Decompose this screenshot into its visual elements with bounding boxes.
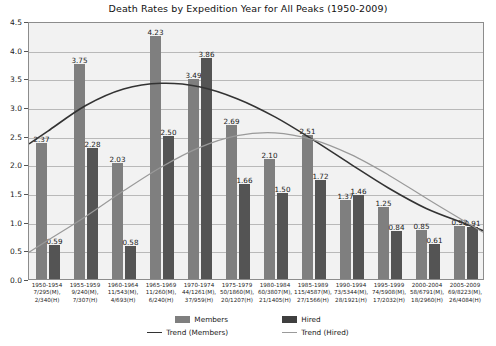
trend-members-line-icon [147,332,162,333]
x-axis-category-label: 1955-19599/240(M),7/307(H) [70,282,101,304]
trend-line-hired [29,133,483,253]
x-axis-category-label: 1950-19547/295(M),2/340(H) [32,282,63,304]
y-axis: 0.00.51.01.52.02.53.03.54.04.5 [0,22,26,280]
legend-label-hired: Hired [301,315,320,324]
y-tick-label: 0.5 [10,247,22,256]
x-axis-labels: 1950-19547/295(M),2/340(H)1955-19599/240… [28,282,484,312]
legend-label-trend-hired: Trend (Hired) [301,328,348,337]
y-tick-label: 3.5 [10,75,22,84]
y-tick-label: 3.0 [10,104,22,113]
x-axis-category-label: 1990-199473/5344(M),28/1921(H) [334,282,368,304]
y-tick-label: 4.5 [10,18,22,27]
y-tick-mark [24,280,28,281]
chart-container: Death Rates by Expedition Year for All P… [0,0,496,346]
legend-item-trend-hired: Trend (Hired) [282,327,348,338]
legend-label-members: Members [194,315,228,324]
members-swatch-icon [175,316,190,323]
chart-title: Death Rates by Expedition Year for All P… [0,3,496,14]
x-axis-category-label: 1975-197950/1860(M),20/1207(H) [220,282,254,304]
legend-item-members: Members [175,314,228,325]
x-axis-category-label: 1965-196911/260(M),6/240(H) [146,282,177,304]
x-axis-category-label: 2005-200969/8223(M),26/4084(H) [448,282,482,304]
x-axis-category-label: 2000-200458/6791(M),18/2960(H) [410,282,444,304]
chart-legend: Members Hired Trend (Members) Trend (Hir… [0,314,496,340]
legend-item-trend-members: Trend (Members) [147,327,228,338]
y-tick-label: 2.5 [10,132,22,141]
y-tick-label: 1.5 [10,190,22,199]
plot-area: 2.370.593.752.282.030.584.232.503.493.86… [28,22,484,280]
hired-swatch-icon [282,316,297,323]
legend-item-hired: Hired [282,314,320,325]
x-axis-category-label: 1980-198460/3807(M),21/1405(H) [258,282,292,304]
trend-lines [29,23,483,279]
x-axis-category-label: 1995-199974/5908(M),17/2032(H) [372,282,406,304]
legend-label-trend-members: Trend (Members) [166,328,228,337]
y-tick-label: 4.0 [10,46,22,55]
y-tick-label: 0.0 [10,276,22,285]
y-tick-label: 2.0 [10,161,22,170]
y-tick-label: 1.0 [10,218,22,227]
trend-hired-line-icon [282,332,297,333]
x-axis-category-label: 1985-1989115/4587(M),27/1566(H) [294,282,332,304]
x-axis-category-label: 1960-196411/543(M),4/693(H) [108,282,139,304]
x-axis-category-label: 1970-197444/1261(M),37/959(H) [182,282,216,304]
